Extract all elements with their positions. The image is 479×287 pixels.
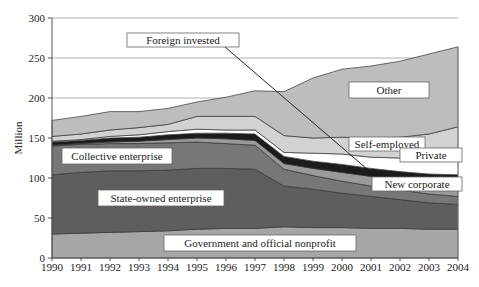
y-tick-label: 200	[29, 92, 46, 104]
x-tick-label: 1996	[215, 261, 238, 273]
y-tick-label: 100	[29, 172, 46, 184]
annotation-label: Foreign invested	[146, 34, 220, 46]
y-tick-label: 250	[29, 52, 46, 64]
annotation-label: Government and official nonprofit	[184, 237, 336, 249]
annotation-label: State-owned enterprise	[110, 192, 211, 204]
x-tick-label: 2003	[418, 261, 441, 273]
y-tick-label: 300	[29, 12, 46, 24]
y-tick-label: 50	[34, 212, 46, 224]
x-tick-label: 2001	[360, 261, 382, 273]
x-tick-label: 1999	[302, 261, 325, 273]
x-tick-label: 1998	[273, 261, 296, 273]
x-tick-label: 1993	[128, 261, 151, 273]
annotation-label: New corporate	[384, 178, 449, 190]
y-axis-label: Million	[12, 121, 24, 155]
x-tick-label: 2000	[331, 261, 354, 273]
annotation-label: Collective enterprise	[71, 150, 162, 162]
annotation-label: Other	[376, 84, 401, 96]
x-tick-label: 1991	[70, 261, 92, 273]
y-axis-ticks: 050100150200250300	[29, 12, 53, 264]
stacked-area-chart: 050100150200250300 199019911992199319941…	[0, 0, 479, 287]
x-tick-label: 1994	[157, 261, 180, 273]
x-axis-ticks: 1990199119921993199419951996199719981999…	[41, 258, 470, 273]
x-tick-label: 1992	[99, 261, 121, 273]
x-tick-label: 1990	[41, 261, 64, 273]
x-tick-label: 2004	[447, 261, 470, 273]
x-tick-label: 1995	[186, 261, 209, 273]
annotation-label: Private	[415, 149, 446, 161]
y-tick-label: 150	[29, 132, 46, 144]
x-tick-label: 2002	[389, 261, 411, 273]
x-tick-label: 1997	[244, 261, 267, 273]
